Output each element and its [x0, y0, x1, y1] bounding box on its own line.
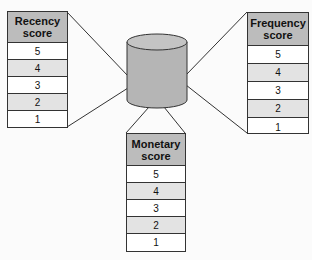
- score-row: 2: [127, 217, 185, 234]
- score-row: 2: [248, 100, 308, 118]
- recency-score-table: Recencyscore 5 4 3 2 1: [7, 11, 68, 128]
- score-row: 1: [127, 234, 185, 251]
- table-header: Recencyscore: [8, 12, 67, 43]
- score-row: 5: [248, 46, 308, 64]
- score-row: 3: [8, 77, 67, 94]
- score-row: 1: [248, 118, 308, 136]
- score-row: 3: [248, 82, 308, 100]
- monetary-score-table: Monetaryscore 5 4 3 2 1: [126, 133, 186, 252]
- score-row: 2: [8, 94, 67, 111]
- score-row: 4: [127, 183, 185, 200]
- score-row: 5: [127, 166, 185, 183]
- score-row: 4: [8, 60, 67, 77]
- table-header: Frequencyscore: [248, 13, 308, 46]
- score-row: 3: [127, 200, 185, 217]
- table-header: Monetaryscore: [127, 134, 185, 166]
- score-row: 4: [248, 64, 308, 82]
- score-row: 5: [8, 43, 67, 60]
- database-cylinder-icon: [127, 34, 187, 108]
- score-row: 1: [8, 111, 67, 128]
- frequency-score-table: Frequencyscore 5 4 3 2 1: [247, 12, 309, 134]
